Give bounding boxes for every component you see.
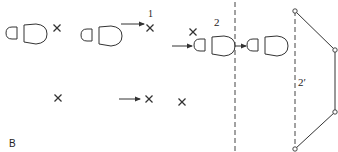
step-label-2-prime: 2′ bbox=[298, 77, 306, 88]
vertex-point bbox=[333, 48, 337, 52]
cross-marker bbox=[54, 25, 61, 32]
cross-marker bbox=[55, 95, 62, 102]
panel-label: B bbox=[9, 139, 16, 149]
vertex-point bbox=[293, 9, 297, 13]
vertex-point bbox=[293, 147, 297, 151]
cross-marker bbox=[190, 29, 197, 36]
cross-marker bbox=[179, 99, 186, 106]
footprint-4 bbox=[247, 36, 288, 56]
step-label-2: 2 bbox=[214, 17, 220, 28]
cross-marker bbox=[147, 25, 154, 32]
footprint-1 bbox=[6, 24, 47, 44]
vertex-point bbox=[333, 110, 337, 114]
step-label-1: 1 bbox=[148, 9, 153, 19]
footprint-2 bbox=[81, 26, 122, 46]
diagram-canvas bbox=[0, 0, 338, 152]
cross-marker bbox=[146, 96, 153, 103]
footprint-3 bbox=[194, 36, 235, 56]
